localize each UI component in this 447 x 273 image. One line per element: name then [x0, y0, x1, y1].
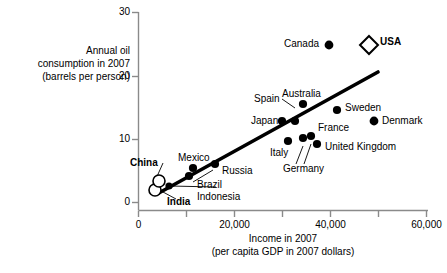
- point-china: [153, 175, 165, 187]
- label-canada: Canada: [284, 38, 319, 50]
- point-germany: [299, 134, 307, 142]
- y-tick-label-10: 10: [110, 133, 130, 145]
- point-usa: [360, 36, 378, 54]
- y-tick-label-0: 0: [110, 196, 130, 208]
- y-axis-title-line1: Annual oil: [8, 44, 130, 57]
- label-usa: USA: [380, 36, 401, 48]
- x-tick-label-60000: 60,000: [400, 219, 447, 231]
- point-denmark: [370, 117, 379, 126]
- point-italy: [284, 137, 292, 145]
- label-japan: Japan: [251, 115, 278, 127]
- point-japan: [278, 117, 286, 125]
- point-france: [307, 132, 315, 140]
- point-australia: [299, 100, 307, 108]
- label-italy: Italy: [270, 147, 288, 159]
- x-axis-title: Income in 2007 (per capita GDP in 2007 d…: [138, 232, 428, 258]
- label-sweden: Sweden: [345, 102, 381, 114]
- label-indonesia: Indonesia: [197, 191, 240, 203]
- x-axis-title-line1: Income in 2007: [138, 232, 428, 245]
- point-canada: [325, 41, 334, 50]
- y-tick-label-30: 30: [110, 6, 130, 18]
- label-united-kingdom: United Kingdom: [325, 141, 396, 153]
- x-tick-label-20000: 20,000: [208, 219, 261, 231]
- label-denmark: Denmark: [382, 115, 423, 127]
- x-tick-label-0: 0: [124, 219, 153, 231]
- label-russia: Russia: [222, 165, 253, 177]
- label-spain: Spain: [254, 93, 280, 105]
- label-brazil: Brazil: [197, 179, 222, 191]
- y-tick-label-20: 20: [110, 70, 130, 82]
- point-mexico: [189, 164, 197, 172]
- label-australia: Australia: [282, 88, 321, 100]
- point-russia: [211, 160, 219, 168]
- point-brazil: [185, 172, 193, 180]
- label-germany: Germany: [283, 163, 324, 175]
- label-china: China: [130, 157, 158, 169]
- label-france: France: [318, 122, 349, 134]
- x-axis: [139, 211, 429, 218]
- x-axis-title-line2: (per capita GDP in 2007 dollars): [138, 245, 428, 258]
- y-axis: [132, 12, 139, 210]
- y-axis-title-line2: consumption in 2007: [8, 57, 130, 70]
- x-tick-label-40000: 40,000: [304, 219, 357, 231]
- label-india: India: [167, 196, 190, 208]
- label-mexico: Mexico: [178, 152, 210, 164]
- point-spain: [291, 117, 299, 125]
- point-sweden: [333, 106, 341, 114]
- point-indonesia: [165, 182, 172, 189]
- point-united-kingdom: [313, 140, 321, 148]
